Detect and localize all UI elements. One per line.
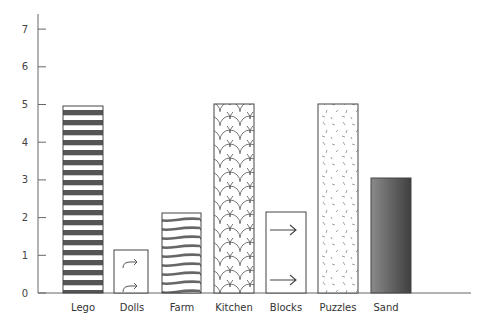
bar-kitchen <box>214 104 254 293</box>
y-tick-label: 3 <box>22 174 28 185</box>
y-tick-label: 5 <box>22 99 28 110</box>
y-tick-label: 1 <box>22 250 28 261</box>
x-label-sand: Sand <box>373 302 398 313</box>
y-ticks: 01234567 <box>22 24 46 299</box>
y-tick-label: 2 <box>22 212 28 223</box>
bar-sand <box>371 178 411 293</box>
x-label-farm: Farm <box>170 302 195 313</box>
bar-puzzles <box>318 104 358 293</box>
bar-lego <box>63 106 103 293</box>
x-label-blocks: Blocks <box>270 302 302 313</box>
y-tick-label: 7 <box>22 24 28 35</box>
x-label-dolls: Dolls <box>120 302 145 313</box>
y-tick-label: 4 <box>22 137 28 148</box>
bar-farm <box>162 213 201 293</box>
x-labels: Lego Dolls Farm Kitchen Blocks Puzzles S… <box>71 302 399 313</box>
y-tick-label: 6 <box>22 61 28 72</box>
x-label-puzzles: Puzzles <box>320 302 357 313</box>
bar-dolls <box>114 250 148 293</box>
y-tick-label: 0 <box>22 288 28 299</box>
x-label-lego: Lego <box>71 302 95 313</box>
bars <box>63 104 411 293</box>
bar-chart: 01234567 Lego Dolls Farm Kitchen Blocks … <box>0 0 489 328</box>
x-label-kitchen: Kitchen <box>215 302 253 313</box>
bar-blocks <box>266 212 306 293</box>
